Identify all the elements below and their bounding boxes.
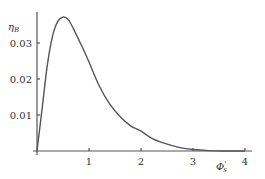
ticks: 12340.010.020.03 [10,38,248,167]
data-curve [37,17,245,151]
y-tick-label: 0.03 [10,38,32,49]
axes [33,12,252,155]
x-axis-label: Φ's [216,160,227,174]
x-tick-label: 2 [138,156,144,167]
y-tick-label: 0.02 [10,74,32,85]
y-tick-label: 0.01 [10,110,32,121]
x-tick-label: 4 [242,156,248,167]
y-axis-label: ηB [8,21,19,34]
x-tick-label: 1 [86,156,92,167]
x-tick-label: 3 [190,156,196,167]
chart: 12340.010.020.03 ηB Φ's [0,0,265,179]
